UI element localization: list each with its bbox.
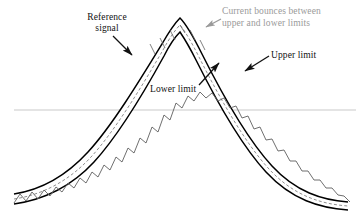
current-bounces-label: Current bounces between upper and lower … — [222, 6, 352, 29]
figure-hysteresis-current-control: Reference signal Current bounces between… — [0, 0, 360, 212]
lower-limit-label: Lower limit — [150, 84, 196, 95]
reference-signal-arrow — [113, 36, 132, 55]
band-fill — [14, 18, 348, 210]
upper-limit-label: Upper limit — [271, 50, 316, 61]
hysteresis-band — [14, 18, 350, 210]
current-bounces-label-line1: Current bounces between — [222, 6, 321, 16]
reference-signal-label-line2: signal — [95, 23, 118, 33]
current-bounces-arrow — [206, 19, 221, 27]
reference-signal-label-line1: Reference — [87, 12, 126, 22]
reference-signal-label: Reference signal — [74, 12, 140, 34]
figure-canvas — [0, 0, 360, 212]
current-bounces-label-line2: upper and lower limits — [222, 18, 310, 28]
upper-limit-arrow — [245, 56, 269, 71]
